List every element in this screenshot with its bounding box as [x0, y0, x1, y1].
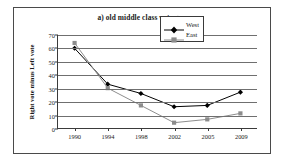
y-axis-tick-mark — [55, 102, 58, 103]
gridline — [58, 35, 257, 36]
y-axis-label: Right vote minus Left vote — [28, 35, 39, 129]
data-point-west — [205, 103, 210, 108]
x-axis-tick-label: 2005 — [202, 133, 215, 140]
y-axis-tick-mark — [55, 129, 58, 130]
y-axis-tick-label: 50 — [49, 58, 55, 65]
chart-figure: a) old middle class vote gap Right vote … — [13, 7, 271, 154]
y-axis-tick-mark — [55, 88, 58, 89]
series-line-east — [75, 43, 241, 123]
legend-label-east: East — [186, 31, 197, 38]
y-axis-tick-label: 30 — [49, 85, 55, 92]
x-axis-tick-mark — [141, 128, 142, 131]
data-point-west — [138, 91, 143, 96]
data-point-west — [238, 90, 243, 95]
gridline — [58, 75, 257, 76]
legend-item-east: East — [164, 29, 199, 39]
x-axis-tick-label: 2002 — [168, 133, 181, 140]
chart-legend: West East — [160, 16, 204, 42]
y-axis-tick-mark — [55, 61, 58, 62]
y-axis-tick-label: 10 — [49, 112, 55, 119]
x-axis-tick-label: 1990 — [68, 133, 81, 140]
legend-label-west: West — [186, 21, 199, 28]
y-axis-tick-label: 20 — [49, 99, 55, 106]
y-axis-tick-label: 70 — [49, 32, 55, 39]
data-point-east — [139, 103, 143, 107]
data-point-east — [72, 41, 76, 45]
y-axis-tick-mark — [55, 35, 58, 36]
legend-key-east — [164, 30, 184, 38]
data-point-east — [205, 117, 209, 121]
gridline — [58, 102, 257, 103]
y-axis-tick-label: 0 — [52, 126, 55, 133]
chart-title: a) old middle class vote gap — [14, 13, 270, 22]
legend-key-west — [164, 20, 184, 28]
data-point-east — [172, 121, 176, 125]
x-axis-tick-mark — [108, 128, 109, 131]
x-axis-tick-mark — [175, 128, 176, 131]
x-axis-tick-label: 2009 — [235, 133, 248, 140]
gridline — [58, 89, 257, 90]
x-axis-tick-mark — [75, 128, 76, 131]
y-axis-tick-mark — [55, 75, 58, 76]
gridline — [58, 116, 257, 117]
legend-item-west: West — [164, 19, 199, 29]
gridline — [58, 48, 257, 49]
plot-area: 010203040506070199019941998200220052009 — [57, 35, 257, 129]
x-axis-tick-mark — [241, 128, 242, 131]
data-point-west — [171, 104, 176, 109]
x-axis-tick-mark — [208, 128, 209, 131]
x-axis-tick-label: 1998 — [135, 133, 148, 140]
y-axis-tick-mark — [55, 48, 58, 49]
y-axis-tick-label: 60 — [49, 45, 55, 52]
y-axis-tick-label: 40 — [49, 72, 55, 79]
y-axis-tick-mark — [55, 115, 58, 116]
gridline — [58, 62, 257, 63]
x-axis-tick-label: 1994 — [102, 133, 115, 140]
